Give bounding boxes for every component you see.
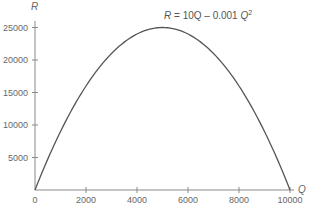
equation-exponent: 2 [248,9,252,16]
equation-r: R [164,10,171,21]
x-tick-label: 2000 [76,195,96,205]
equation-middle: = 10Q – 0.001 [171,10,240,21]
equation-annotation: R = 10Q – 0.001 Q2 [164,9,252,21]
x-tick-label: 6000 [178,195,198,205]
y-tick-label: 15000 [3,88,28,98]
revenue-chart: 500010000150002000025000 020004000600080… [0,0,312,217]
x-tick-label: 4000 [127,195,147,205]
y-tick-label: 20000 [3,55,28,65]
x-tick-label: 0 [32,195,37,205]
y-axis-label: R [31,1,38,12]
y-tick-label: 5000 [8,153,28,163]
revenue-curve [35,28,290,191]
y-tick-label: 25000 [3,23,28,33]
x-tick-label: 8000 [229,195,249,205]
y-tick-label: 10000 [3,120,28,130]
x-tick-label: 10000 [277,195,302,205]
y-ticks: 500010000150002000025000 [3,23,38,163]
x-axis-label: Q [298,184,306,195]
